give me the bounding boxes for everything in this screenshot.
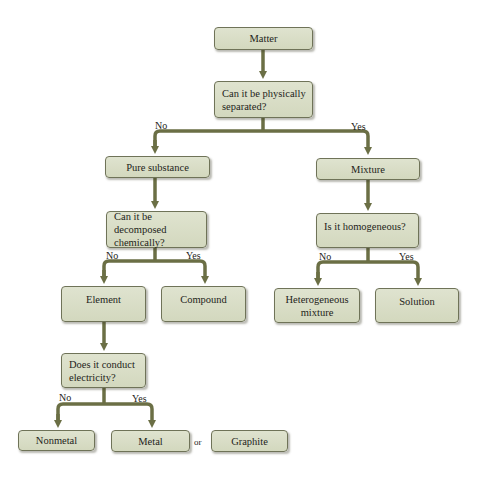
node-question-homogeneous: Is it homogeneous? — [316, 213, 419, 248]
edge-label-homogeneous-no: No — [319, 251, 331, 263]
node-question-conduct-label: Does it conduct electricity? — [69, 358, 141, 384]
node-compound: Compound — [161, 286, 246, 322]
node-question-separated: Can it be physically separated? — [214, 81, 313, 118]
node-matter-label: Matter — [250, 32, 278, 45]
edge-label-separated-no: No — [155, 120, 167, 132]
node-heterogeneous-mixture-label: Heterogeneous mixture — [285, 293, 349, 319]
node-pure-substance: Pure substance — [105, 156, 210, 178]
node-metal: Metal — [111, 430, 190, 452]
node-mixture-label: Mixture — [351, 163, 385, 176]
node-question-decomposed-label: Can it be decomposed chemically? — [114, 210, 202, 249]
node-question-conduct: Does it conduct electricity? — [61, 353, 146, 388]
matter-classification-flowchart: Matter Can it be physically separated? P… — [0, 0, 485, 478]
node-compound-label: Compound — [180, 293, 227, 306]
node-question-decomposed: Can it be decomposed chemically? — [106, 211, 207, 248]
node-mixture: Mixture — [316, 158, 420, 180]
node-pure-substance-label: Pure substance — [126, 161, 189, 174]
edge-label-decomposed-no: No — [106, 250, 118, 262]
branch-homogeneous — [318, 262, 418, 282]
node-matter: Matter — [214, 27, 313, 50]
node-graphite: Graphite — [211, 430, 288, 452]
node-solution-label: Solution — [399, 295, 435, 308]
node-question-homogeneous-label: Is it homogeneous? — [324, 220, 406, 233]
branch-decomposed — [104, 261, 205, 280]
connector-or-label: or — [194, 436, 202, 448]
edge-label-conduct-no: No — [59, 392, 71, 404]
node-nonmetal-label: Nonmetal — [36, 434, 77, 447]
node-heterogeneous-mixture: Heterogeneous mixture — [274, 288, 360, 323]
node-graphite-label: Graphite — [231, 435, 268, 448]
edge-label-separated-yes: Yes — [351, 121, 366, 133]
edge-label-decomposed-yes: Yes — [186, 250, 201, 262]
node-question-separated-label: Can it be physically separated? — [222, 87, 308, 113]
edge-label-conduct-yes: Yes — [132, 393, 147, 405]
node-metal-label: Metal — [138, 435, 163, 448]
node-solution: Solution — [375, 288, 459, 323]
node-element-label: Element — [86, 293, 121, 306]
node-element: Element — [61, 286, 146, 322]
node-nonmetal: Nonmetal — [18, 430, 95, 451]
branch-conduct — [58, 404, 152, 424]
branch-separated — [155, 131, 368, 151]
edge-label-homogeneous-yes: Yes — [399, 251, 414, 263]
